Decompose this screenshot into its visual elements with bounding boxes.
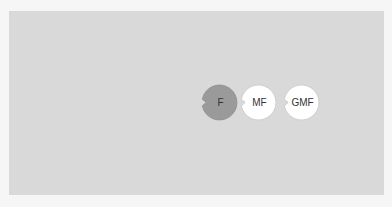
node-f[interactable]: F [201,84,238,121]
gray-panel [9,11,384,195]
node-label: F [203,84,238,121]
node-mf[interactable]: MF [240,84,277,121]
node-label: GMF [285,84,320,121]
canvas-frame: F MF GMF [0,0,392,207]
node-label: MF [242,84,277,121]
node-gmf[interactable]: GMF [283,84,320,121]
